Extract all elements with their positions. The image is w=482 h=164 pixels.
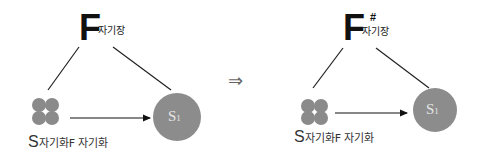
- left-target-label: S1: [168, 109, 181, 124]
- left-source-label-prefix: S: [28, 133, 39, 150]
- right-field-superscript: #: [370, 12, 376, 23]
- left-edge-field-to-target: [113, 47, 171, 90]
- right-field-label: 자기장: [362, 27, 389, 37]
- implies-arrow-icon: ⇒: [228, 72, 243, 90]
- right-source-node-icon: [301, 99, 328, 125]
- right-source-label: S자기화F 자기화: [294, 129, 375, 145]
- right-source-label-rest: 자기화F 자기화: [305, 132, 375, 145]
- left-edge-field-to-source: [48, 47, 79, 90]
- left-source-label: S자기화F 자기화: [28, 134, 109, 150]
- right-edge-field-to-target: [376, 48, 429, 88]
- right-su-field-model: [301, 48, 457, 132]
- left-target-subscript: 1: [176, 113, 181, 123]
- left-su-field-model: [32, 47, 201, 141]
- left-field-label: 자기장: [98, 26, 125, 36]
- left-source-label-rest: 자기화F 자기화: [39, 137, 109, 150]
- left-source-node-icon: [32, 98, 59, 125]
- right-edge-field-to-source: [313, 48, 343, 88]
- right-target-subscript: 1: [434, 106, 439, 116]
- right-source-label-prefix: S: [294, 128, 305, 145]
- right-target-label: S1: [426, 102, 439, 117]
